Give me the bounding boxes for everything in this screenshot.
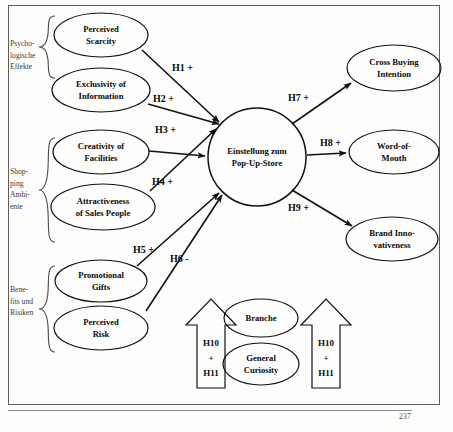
hypothesis-label-h5: H5 + [133, 244, 154, 255]
node-cross-buying-intention [347, 45, 441, 91]
diagram-page: Psycho- logische Effekte Shop- ping Ambi… [0, 0, 453, 432]
arrow-h2 [148, 104, 219, 124]
node-general-curiosity [223, 343, 299, 385]
moderator-label-line: H11 [188, 366, 234, 381]
footer-rule [8, 410, 412, 411]
node-perceived-risk [54, 306, 148, 350]
hypothesis-label-h6: H6 - [170, 253, 189, 264]
moderator-label-left: H10 + H11 [188, 336, 234, 381]
node-central-construct [208, 108, 306, 206]
group-label-line: Bene- [10, 284, 57, 296]
arrow-h8 [307, 153, 346, 155]
moderator-label-right: H10 + H11 [303, 336, 349, 381]
arrow-h1 [142, 50, 219, 122]
arrow-h7 [292, 83, 351, 124]
node-word-of-mouth [349, 130, 439, 174]
node-exclusivity-of-information [52, 68, 150, 112]
hypothesis-label-h1: H1 + [172, 62, 193, 73]
node-brand-innovativeness [346, 217, 438, 261]
node-branche [224, 299, 298, 337]
arrow-h3 [149, 151, 205, 156]
group-label-benefits-und-risiken: Bene- fits und Risiken [10, 284, 57, 319]
group-label-line: Shop- [10, 166, 55, 178]
group-label-line: Effekte [10, 61, 55, 73]
hypothesis-label-h9: H9 + [288, 202, 309, 213]
hypothesis-label-h2: H2 + [153, 93, 174, 104]
group-label-line: Ambi- [10, 189, 55, 201]
group-label-line: Psycho- [10, 38, 55, 50]
group-label-shopping-ambiente: Shop- ping Ambi- ente [10, 166, 55, 212]
group-label-line: ente [10, 201, 55, 213]
moderator-label-line: H10 [188, 336, 234, 351]
node-promotional-gifts [55, 260, 147, 302]
page-number: 237 [399, 412, 411, 421]
group-label-line: fits und [10, 296, 57, 308]
moderator-label-line: H10 [303, 336, 349, 351]
hypothesis-label-h8: H8 + [320, 137, 341, 148]
moderator-label-line: + [188, 351, 234, 366]
hypothesis-label-h3: H3 + [155, 124, 176, 135]
group-label-line: Risiken [10, 307, 57, 319]
group-label-psychologische-effekte: Psycho- logische Effekte [10, 38, 55, 73]
hypothesis-label-h7: H7 + [288, 92, 309, 103]
node-attractiveness-of-sales-people [51, 184, 155, 230]
node-perceived-scarcity [54, 13, 148, 57]
hypothesis-label-h4: H4 + [152, 176, 173, 187]
group-label-line: ping [10, 178, 55, 190]
moderator-label-line: H11 [303, 366, 349, 381]
node-creativity-of-facilities [53, 130, 149, 174]
group-label-line: logische [10, 50, 55, 62]
moderator-label-line: + [303, 351, 349, 366]
